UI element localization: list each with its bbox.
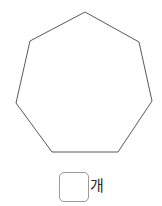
heptagon-shape xyxy=(16,12,152,152)
answer-input[interactable] xyxy=(59,172,89,202)
heptagon-svg xyxy=(0,0,162,164)
unit-label: 개 xyxy=(90,179,104,195)
polygon-figure xyxy=(0,0,162,164)
answer-row: 개 xyxy=(59,170,104,203)
worksheet-page: 개 xyxy=(0,0,162,206)
